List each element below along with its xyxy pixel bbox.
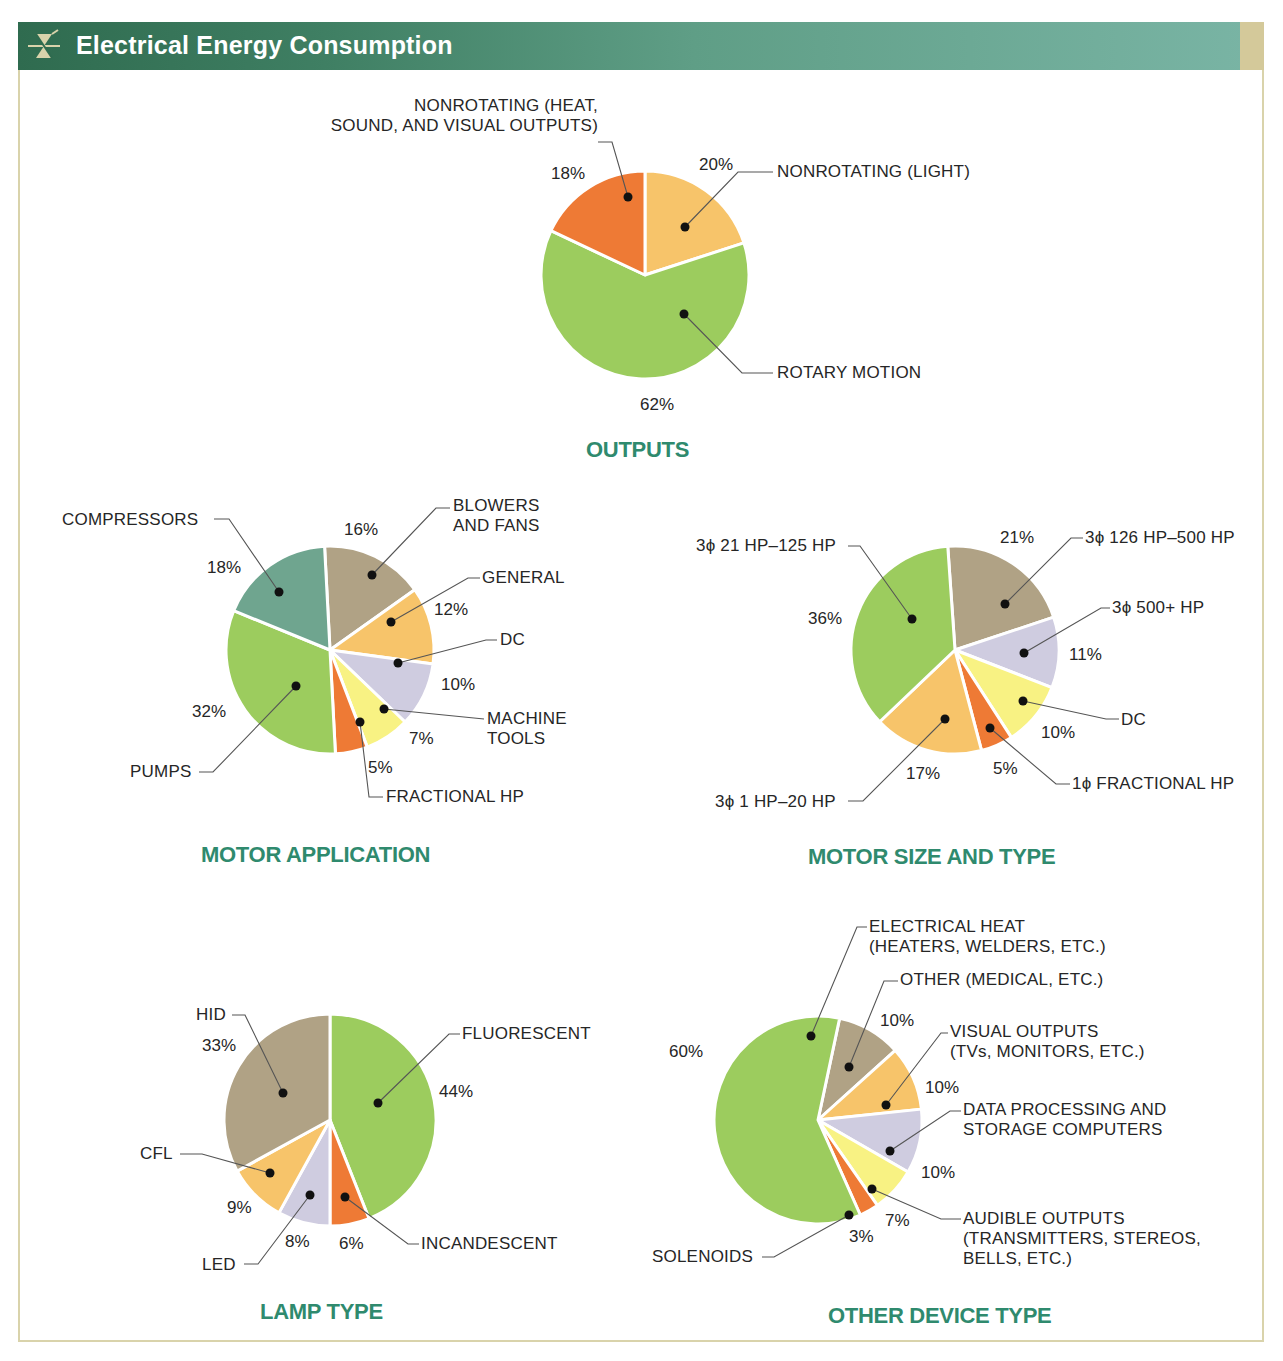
lamp-title: LAMP TYPE [260,1299,383,1325]
motorapp-label-pumps: PUMPS [130,762,191,782]
leader-dot [1019,697,1028,706]
motorsize-label-hp21: 3ϕ 21 HP–125 HP [696,536,836,556]
other-label-heat: ELECTRICAL HEAT (HEATERS, WELDERS, ETC.) [869,917,1106,957]
leader-dot [387,618,396,627]
leader-dot [266,1169,275,1178]
motorsize-title: MOTOR SIZE AND TYPE [808,844,1055,870]
lamp-pct-led: 8% [285,1232,310,1252]
leader-dot [306,1191,315,1200]
motorapp-label-general: GENERAL [482,568,565,588]
motorapp-title: MOTOR APPLICATION [201,842,430,868]
outputs-label-rotary: ROTARY MOTION [777,363,921,383]
motorapp-label-dc: DC [500,630,525,650]
leader-dot [341,1193,350,1202]
lamp-label-fluorescent: FLUORESCENT [462,1024,591,1044]
leader-dot [368,571,377,580]
outputs-label-light: NONROTATING (LIGHT) [777,162,970,182]
motorapp-pct-pumps: 32% [192,702,226,722]
pie-4 [714,1016,922,1224]
lamp-label-hid: HID [196,1005,226,1025]
leader-dot [380,705,389,714]
lamp-pct-fluorescent: 44% [439,1082,473,1102]
other-label-visual: VISUAL OUTPUTS (TVs, MONITORS, ETC.) [950,1022,1145,1062]
motorapp-label-machine: MACHINE TOOLS [487,709,567,749]
pie-1 [226,546,434,754]
other-pct-audible: 7% [885,1211,910,1231]
outputs-pct-heat: 18% [551,164,585,184]
motorsize-pct-frac: 5% [993,759,1018,779]
motorapp-pct-blowers: 16% [344,520,378,540]
leader-dot [807,1032,816,1041]
motorsize-label-hp1: 3ϕ 1 HP–20 HP [715,792,836,812]
lamp-label-cfl: CFL [140,1144,173,1164]
other-pct-solenoids: 3% [849,1227,874,1247]
motorapp-pct-general: 12% [434,600,468,620]
motorapp-pct-fractional: 5% [368,758,393,778]
leader-dot [374,1099,383,1108]
lamp-pct-hid: 33% [202,1036,236,1056]
outputs-pct-rotary: 62% [640,395,674,415]
motorsize-pct-hp500: 11% [1069,645,1102,665]
motorapp-pct-machine: 7% [409,729,434,749]
motorsize-pct-hp126: 21% [1000,528,1034,548]
lamp-pct-cfl: 9% [227,1198,252,1218]
pie-3 [224,1014,436,1226]
leader-dot [886,1147,895,1156]
leader-dot [986,724,995,733]
motorsize-label-frac: 1ϕ FRACTIONAL HP [1072,774,1234,794]
other-pct-heat: 60% [669,1042,703,1062]
motorsize-label-hp126: 3ϕ 126 HP–500 HP [1085,528,1235,548]
outputs-label-heat: NONROTATING (HEAT, SOUND, AND VISUAL OUT… [290,96,598,136]
motorsize-label-dc: DC [1121,710,1146,730]
leader-dot [680,310,689,319]
leader-dot [845,1063,854,1072]
motorsize-pct-hp21: 36% [808,609,842,629]
charts-canvas [0,0,1283,1361]
other-label-data: DATA PROCESSING AND STORAGE COMPUTERS [963,1100,1166,1140]
lamp-pct-incandescent: 6% [339,1234,364,1254]
leader-dot [845,1211,854,1220]
other-label-audible: AUDIBLE OUTPUTS (TRANSMITTERS, STEREOS, … [963,1209,1201,1269]
motorapp-pct-dc: 10% [441,675,475,695]
other-pct-data: 10% [921,1163,955,1183]
leader-dot [681,223,690,232]
leader-dot [941,715,950,724]
motorsize-pct-hp1: 17% [906,764,940,784]
motorsize-label-hp500: 3ϕ 500+ HP [1112,598,1204,618]
lamp-label-led: LED [202,1255,236,1275]
leader-dot [882,1101,891,1110]
outputs-pct-light: 20% [699,155,733,175]
leader-dot [1001,600,1010,609]
leader-dot [624,193,633,202]
motorapp-pct-compressors: 18% [207,558,241,578]
motorapp-label-blowers: BLOWERS AND FANS [453,496,540,536]
other-pct-visual: 10% [925,1078,959,1098]
leader-dot [394,659,403,668]
other-pct-other: 10% [880,1011,914,1031]
leader-dot [275,588,284,597]
motorapp-label-fractional: FRACTIONAL HP [386,787,524,807]
other-title: OTHER DEVICE TYPE [828,1303,1052,1329]
leader-dot [868,1185,877,1194]
motorsize-pct-dc: 10% [1041,723,1075,743]
motorapp-label-compressors: COMPRESSORS [62,510,198,530]
other-label-solenoids: SOLENOIDS [652,1247,753,1267]
lamp-label-incandescent: INCANDESCENT [421,1234,558,1254]
leader-dot [356,718,365,727]
leader-dot [292,682,301,691]
leader-dot [1020,649,1029,658]
leader-dot [279,1089,288,1098]
other-label-other: OTHER (MEDICAL, ETC.) [900,970,1104,990]
leader-dot [908,615,917,624]
outputs-title: OUTPUTS [586,437,689,463]
